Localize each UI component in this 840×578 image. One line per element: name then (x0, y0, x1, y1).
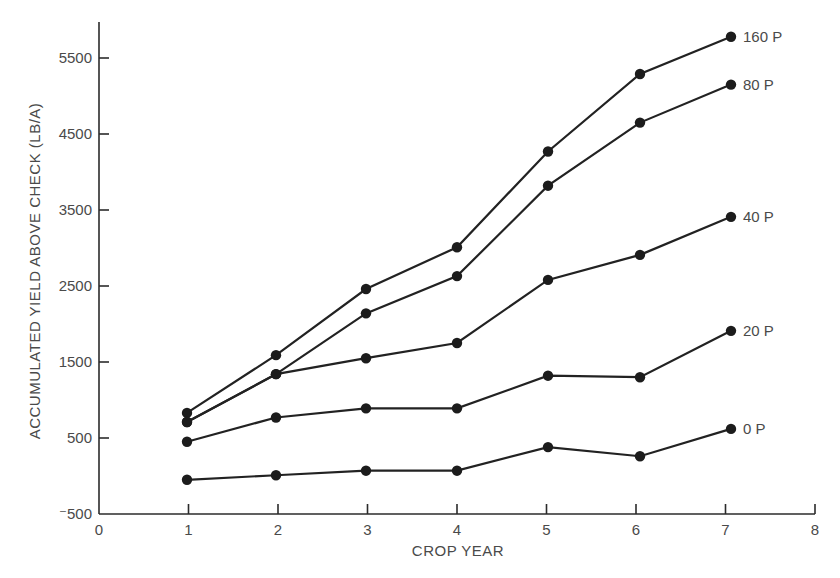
data-point (452, 338, 462, 348)
series-80p: 80 P (182, 76, 774, 428)
x-tick-label: 5 (542, 521, 550, 538)
y-tick-label: 3500 (59, 201, 92, 218)
data-point (361, 284, 371, 294)
series-40p: 40 P (182, 208, 774, 427)
x-tick-label: 8 (811, 521, 819, 538)
data-point (452, 403, 462, 413)
data-point (726, 326, 736, 336)
data-point (635, 451, 645, 461)
data-point (182, 437, 192, 447)
data-point (635, 69, 645, 79)
series-160p: 160 P (182, 28, 782, 418)
data-point (543, 180, 553, 190)
axes: ⁻50050015002500350045005500012345678 (59, 22, 820, 538)
data-point (635, 117, 645, 127)
data-point (635, 250, 645, 260)
y-tick-label: 5500 (59, 49, 92, 66)
series-label: 20 P (743, 322, 774, 339)
data-point (543, 275, 553, 285)
data-point (271, 412, 281, 422)
data-point (361, 308, 371, 318)
series-group: 160 P80 P40 P20 P0 P (182, 28, 782, 485)
data-point (452, 242, 462, 252)
data-point (726, 79, 736, 89)
data-point (452, 271, 462, 281)
x-tick-label: 0 (95, 521, 103, 538)
data-point (361, 465, 371, 475)
y-axis-title: ACCUMULATED YIELD ABOVE CHECK (LB/A) (26, 103, 43, 440)
series-label: 0 P (743, 420, 766, 437)
data-point (543, 442, 553, 452)
data-point (726, 32, 736, 42)
data-point (543, 146, 553, 156)
x-tick-label: 3 (363, 521, 371, 538)
data-point (726, 212, 736, 222)
y-tick-label: 1500 (59, 353, 92, 370)
series-line (187, 37, 731, 413)
x-tick-label: 6 (632, 521, 640, 538)
y-tick-label: 4500 (59, 125, 92, 142)
series-0p: 0 P (182, 420, 766, 485)
data-point (271, 369, 281, 379)
series-label: 160 P (743, 28, 782, 45)
x-tick-label: 7 (721, 521, 729, 538)
data-point (361, 353, 371, 363)
y-tick-label: 2500 (59, 277, 92, 294)
data-point (361, 403, 371, 413)
series-20p: 20 P (182, 322, 774, 447)
data-point (271, 350, 281, 360)
data-point (182, 475, 192, 485)
line-chart: ⁻50050015002500350045005500012345678 160… (0, 0, 840, 578)
x-tick-label: 2 (274, 521, 282, 538)
data-point (271, 470, 281, 480)
y-tick-label: 500 (67, 429, 92, 446)
series-label: 80 P (743, 76, 774, 93)
y-tick-label: ⁻500 (59, 505, 92, 522)
series-label: 40 P (743, 208, 774, 225)
data-point (182, 417, 192, 427)
x-axis-title: CROP YEAR (412, 542, 504, 559)
data-point (635, 372, 645, 382)
data-point (726, 424, 736, 434)
x-tick-label: 4 (453, 521, 461, 538)
x-tick-label: 1 (184, 521, 192, 538)
data-point (452, 465, 462, 475)
data-point (182, 408, 192, 418)
data-point (543, 370, 553, 380)
